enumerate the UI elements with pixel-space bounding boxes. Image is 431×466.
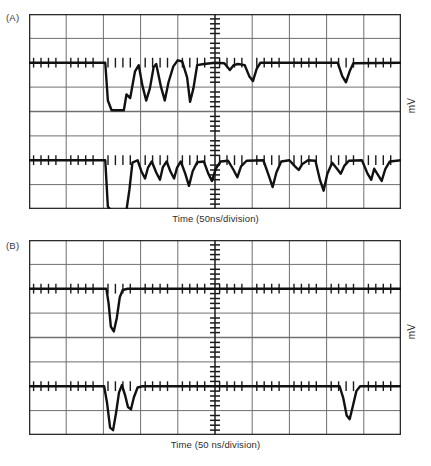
panel-a-y-caption: mV xyxy=(406,98,417,114)
panel-a-label: (A) xyxy=(6,12,19,23)
panel-b: (B) xyxy=(0,228,431,466)
panel-a-scope xyxy=(29,14,401,209)
panel-a-x-caption: Time (50ns/division) xyxy=(0,213,431,224)
panel-b-x-caption: Time (50 ns/division) xyxy=(0,439,431,450)
panel-a: (A) xyxy=(0,0,431,232)
panel-b-label: (B) xyxy=(6,240,19,251)
panel-b-y-caption: mV xyxy=(406,324,417,340)
panel-b-scope xyxy=(29,240,401,435)
oscilloscope-figure: (A) xyxy=(0,0,431,466)
